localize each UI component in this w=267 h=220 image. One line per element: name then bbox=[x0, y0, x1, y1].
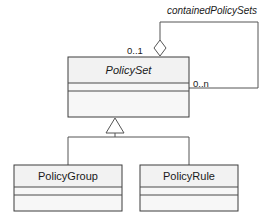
class-policyrule-name: PolicyRule bbox=[163, 170, 215, 182]
class-box-policyrule[interactable]: PolicyRule bbox=[140, 165, 238, 211]
class-policygroup-op-fill bbox=[14, 195, 122, 211]
class-policyset-name: PolicySet bbox=[106, 64, 153, 76]
class-policyset-op-fill bbox=[68, 91, 189, 117]
class-policygroup-name: PolicyGroup bbox=[38, 170, 98, 182]
aggregation-diamond-icon bbox=[154, 40, 166, 56]
class-policyrule-op-fill bbox=[140, 195, 238, 211]
generalization-policyset[interactable] bbox=[68, 118, 189, 165]
diagram-canvas: PolicySet PolicyGroup PolicyRule contain… bbox=[0, 0, 267, 220]
multiplicity-label-source: 0..1 bbox=[127, 45, 143, 56]
association-label-contained-policy-sets: containedPolicySets bbox=[167, 5, 257, 16]
multiplicity-label-target: 0..n bbox=[193, 78, 209, 89]
class-policyset-attr-fill bbox=[68, 83, 189, 91]
class-policyrule-attr-fill bbox=[140, 187, 238, 195]
class-policygroup-attr-fill bbox=[14, 187, 122, 195]
class-box-policyset[interactable]: PolicySet bbox=[68, 57, 189, 117]
uml-class-diagram: PolicySet PolicyGroup PolicyRule contain… bbox=[0, 0, 267, 220]
generalization-triangle-icon bbox=[106, 118, 124, 133]
class-box-policygroup[interactable]: PolicyGroup bbox=[14, 165, 122, 211]
